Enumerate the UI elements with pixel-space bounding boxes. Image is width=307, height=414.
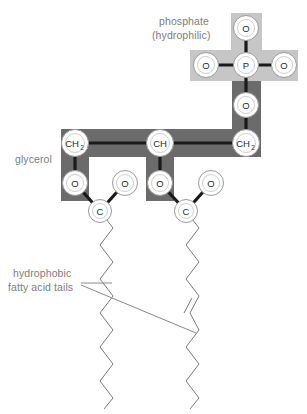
- atom-o-phosphate-top: O: [234, 16, 259, 41]
- atom-ch-middle: CH: [147, 130, 174, 157]
- atom-o-carbonyl-right: O: [199, 171, 224, 196]
- phospholipid-diagram: O O P O O: [0, 0, 307, 414]
- atom-label: O: [242, 23, 249, 34]
- atom-ch2-left: CH 2: [62, 130, 89, 157]
- atom-o-phosphate-bottom: O: [234, 93, 259, 118]
- phosphate-label-line2: (hydrophilic): [152, 29, 211, 41]
- atom-p-phosphorus: P: [234, 53, 259, 78]
- atom-label-subscript: 2: [251, 144, 255, 151]
- atom-label: O: [156, 178, 163, 189]
- atom-label: O: [121, 178, 128, 189]
- atom-label: O: [242, 100, 249, 111]
- atom-label: CH: [153, 138, 167, 149]
- atom-o-carbonyl-left: O: [113, 171, 138, 196]
- leader-line-tail-right: [81, 285, 196, 333]
- atom-label: C: [97, 206, 104, 217]
- atom-o-ester-left: O: [63, 171, 88, 196]
- glycerol-label: glycerol: [15, 153, 52, 165]
- atom-label-subscript: 2: [80, 144, 84, 151]
- atom-label: P: [243, 60, 249, 71]
- atom-o-phosphate-left: O: [194, 53, 219, 78]
- tails-label-line1: hydrophobic: [13, 267, 71, 279]
- atom-label: C: [183, 206, 190, 217]
- atom-label: CH: [236, 138, 250, 149]
- atom-label: O: [280, 60, 287, 71]
- fatty-acid-tail-left: [100, 211, 113, 409]
- atom-label: O: [207, 178, 214, 189]
- atom-o-phosphate-right: O: [272, 53, 297, 78]
- diagram-canvas: O O P O O: [0, 0, 307, 414]
- atom-ch2-right: CH 2: [233, 130, 260, 157]
- fatty-acid-tail-right: [184, 211, 199, 409]
- atom-label: CH: [65, 138, 79, 149]
- tails-label-line2: fatty acid tails: [8, 281, 73, 293]
- leader-line-group: [81, 283, 196, 333]
- atom-c-ester-left: C: [89, 200, 112, 223]
- atom-o-ester-right: O: [148, 171, 173, 196]
- atom-label: O: [71, 178, 78, 189]
- atom-label: O: [202, 60, 209, 71]
- atom-c-ester-right: C: [175, 200, 198, 223]
- phosphate-label-line1: phosphate: [159, 15, 209, 27]
